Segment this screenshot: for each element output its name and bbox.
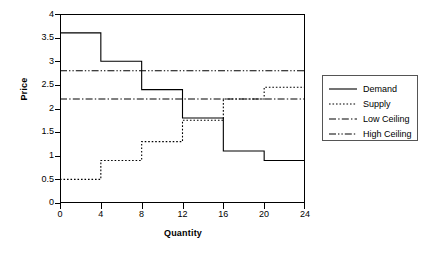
chart-container: Price 4 3.5 3 2.5 2 1.5 1 0.5 0 0 4 8 12… [0,0,436,255]
x-tick-label: 0 [48,210,72,219]
y-tick-label: 1 [28,151,54,160]
legend-item-supply: Supply [323,96,417,111]
legend-swatch-dash-dot-icon [328,114,358,124]
legend-swatch-dash-dot-dot-icon [328,129,358,139]
series-demand-line [60,33,305,161]
legend-label: Supply [358,99,391,109]
y-tick-label: 2.5 [28,80,54,89]
y-tick-label: 2 [28,104,54,113]
x-axis-title: Quantity [60,228,306,238]
x-tick-label: 20 [252,210,276,219]
x-tick-label: 4 [89,210,113,219]
legend-item-low-ceiling: Low Ceiling [323,111,417,126]
legend-label: High Ceiling [358,129,412,139]
legend-label: Demand [358,84,397,94]
legend: Demand Supply Low Ceiling High Ceiling [322,75,418,141]
legend-item-high-ceiling: High Ceiling [323,126,417,141]
plot-area [60,14,305,203]
y-tick-label: 0 [28,198,54,207]
legend-swatch-solid-icon [328,84,358,94]
y-tick-label: 3 [28,57,54,66]
y-tick-label: 0.5 [28,175,54,184]
x-tick-label: 16 [211,210,235,219]
x-tick-label: 12 [171,210,195,219]
x-tick-label: 8 [130,210,154,219]
legend-label: Low Ceiling [358,114,410,124]
y-tick-label: 4 [28,10,54,19]
legend-swatch-dotted-icon [328,99,358,109]
legend-item-demand: Demand [323,81,417,96]
y-tick-label: 3.5 [28,33,54,42]
y-tick-label: 1.5 [28,127,54,136]
x-tick-label: 24 [293,210,317,219]
x-axis-tick-labels: 0 4 8 12 16 20 24 [0,210,436,224]
